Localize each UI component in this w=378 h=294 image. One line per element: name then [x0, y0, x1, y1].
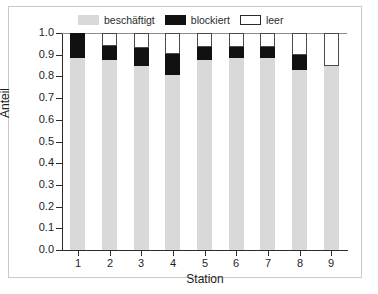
chart-legend: beschäftigt blockiert leer [78, 12, 283, 28]
x-axis-tick [268, 251, 269, 256]
x-axis-tick [331, 251, 332, 256]
bar-segment-beschaeftigt-station-4 [165, 75, 180, 250]
bar-segment-beschaeftigt-station-1 [70, 58, 85, 250]
bar-segment-blockiert-station-1 [70, 33, 85, 58]
x-axis-tick [173, 251, 174, 256]
x-axis-tick [110, 251, 111, 256]
x-axis-tick-label: 6 [226, 258, 246, 269]
bar-segment-leer-station-4 [165, 33, 180, 54]
bar-station-3[interactable] [134, 33, 149, 250]
bar-station-6[interactable] [229, 33, 244, 250]
chart-figure: beschäftigt blockiert leer Anteil Statio… [0, 0, 378, 294]
bar-station-5[interactable] [197, 33, 212, 250]
x-axis-tick [78, 251, 79, 256]
bar-segment-beschaeftigt-station-9 [324, 66, 339, 250]
bar-segment-beschaeftigt-station-6 [229, 58, 244, 250]
y-axis-tick-label: 1.0 [24, 27, 54, 38]
bar-station-8[interactable] [292, 33, 307, 250]
bar-segment-beschaeftigt-station-3 [134, 66, 149, 250]
x-axis-tick-label: 4 [163, 258, 183, 269]
x-axis-tick-label: 9 [321, 258, 341, 269]
y-axis-tick-label: 0.0 [24, 244, 54, 255]
x-axis-tick-label: 7 [258, 258, 278, 269]
y-axis-tick-label: 0.7 [24, 92, 54, 103]
legend-label-leer: leer [266, 15, 284, 26]
y-axis-tick [56, 250, 62, 251]
legend-swatch-beschaeftigt-icon [78, 15, 99, 25]
x-axis-tick-label: 2 [100, 258, 120, 269]
bar-segment-leer-station-5 [197, 33, 212, 47]
bar-segment-blockiert-station-4 [165, 54, 180, 75]
bar-segment-leer-station-3 [134, 33, 149, 48]
bar-segment-leer-station-9 [324, 33, 339, 66]
bar-segment-leer-station-7 [260, 33, 275, 47]
legend-swatch-blockiert-icon [165, 15, 186, 25]
legend-item-beschaeftigt: beschäftigt [78, 15, 155, 26]
bar-segment-leer-station-8 [292, 33, 307, 55]
bar-segment-beschaeftigt-station-5 [197, 60, 212, 250]
x-axis-title: Station [62, 272, 348, 286]
bar-station-4[interactable] [165, 33, 180, 250]
x-axis-tick-label: 8 [290, 258, 310, 269]
y-axis-tick-label: 0.3 [24, 179, 54, 190]
y-axis-tick-label: 0.1 [24, 222, 54, 233]
bar-segment-blockiert-station-6 [229, 47, 244, 58]
bar-segment-leer-station-6 [229, 33, 244, 47]
legend-swatch-leer-icon [240, 15, 261, 25]
plot-area [62, 33, 347, 250]
legend-item-blockiert: blockiert [165, 15, 230, 26]
bar-segment-beschaeftigt-station-7 [260, 58, 275, 250]
bar-segment-blockiert-station-8 [292, 55, 307, 71]
y-axis-tick-label: 0.8 [24, 70, 54, 81]
x-axis-tick [141, 251, 142, 256]
y-axis-title: Anteil [0, 88, 12, 118]
x-axis-tick-label: 1 [68, 258, 88, 269]
bar-segment-beschaeftigt-station-2 [102, 60, 117, 250]
y-axis-tick-label: 0.2 [24, 201, 54, 212]
x-axis-tick-label: 3 [131, 258, 151, 269]
bar-segment-blockiert-station-7 [260, 47, 275, 57]
bar-station-7[interactable] [260, 33, 275, 250]
bar-segment-blockiert-station-5 [197, 47, 212, 60]
bar-segment-leer-station-2 [102, 33, 117, 46]
bar-segment-beschaeftigt-station-8 [292, 70, 307, 250]
y-axis-tick-label: 0.6 [24, 114, 54, 125]
x-axis-tick [205, 251, 206, 256]
x-axis-tick [300, 251, 301, 256]
y-axis-tick-label: 0.9 [24, 49, 54, 60]
bar-station-2[interactable] [102, 33, 117, 250]
bar-station-9[interactable] [324, 33, 339, 250]
legend-label-beschaeftigt: beschäftigt [104, 15, 155, 26]
bar-station-1[interactable] [70, 33, 85, 250]
bar-segment-blockiert-station-3 [134, 48, 149, 65]
y-axis-tick-label: 0.4 [24, 157, 54, 168]
y-axis-tick-label: 0.5 [24, 136, 54, 147]
x-axis-tick [236, 251, 237, 256]
bar-segment-blockiert-station-2 [102, 46, 117, 60]
legend-label-blockiert: blockiert [191, 15, 230, 26]
x-axis-tick-label: 5 [195, 258, 215, 269]
legend-item-leer: leer [240, 15, 284, 26]
